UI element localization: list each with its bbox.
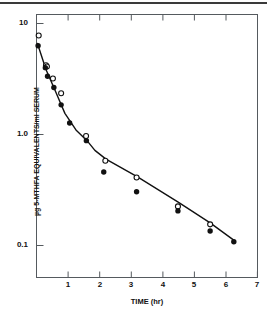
data-point-filled bbox=[67, 120, 72, 125]
filled-circle-series bbox=[35, 43, 236, 244]
x-tick-label-2: 2 bbox=[93, 280, 107, 289]
plot-canvas bbox=[0, 0, 267, 311]
x-axis-title: TIME (hr) bbox=[36, 297, 258, 306]
data-point-open bbox=[36, 33, 41, 38]
x-tick-label-3: 3 bbox=[124, 280, 138, 289]
open-circle-series bbox=[36, 33, 212, 227]
data-point-filled bbox=[58, 102, 63, 107]
data-point-open bbox=[84, 133, 89, 138]
data-point-filled bbox=[35, 43, 40, 48]
fit-curve bbox=[37, 44, 234, 241]
data-point-open bbox=[175, 204, 180, 209]
figure-container: 10 1.0 0.1 1 2 3 4 5 6 7 µg 5-MTHFA EQUI… bbox=[0, 0, 267, 311]
data-point-filled bbox=[101, 169, 106, 174]
y-tick-label-0-1: 0.1 bbox=[6, 240, 28, 249]
data-point-open bbox=[59, 91, 64, 96]
data-point-filled bbox=[207, 228, 212, 233]
x-tick-label-7: 7 bbox=[250, 280, 264, 289]
data-point-open bbox=[134, 175, 139, 180]
data-point-filled bbox=[45, 74, 50, 79]
data-point-filled bbox=[51, 85, 56, 90]
data-point-filled bbox=[134, 189, 139, 194]
data-point-filled bbox=[175, 208, 180, 213]
data-point-filled bbox=[43, 65, 48, 70]
x-axis-ticks bbox=[68, 272, 257, 278]
data-point-filled bbox=[84, 138, 89, 143]
x-tick-label-5: 5 bbox=[187, 280, 201, 289]
axis-frame bbox=[37, 15, 258, 278]
data-point-open bbox=[50, 76, 55, 81]
data-point-open bbox=[208, 222, 213, 227]
data-point-filled bbox=[231, 239, 236, 244]
x-tick-label-1: 1 bbox=[61, 280, 75, 289]
data-point-open bbox=[103, 158, 108, 163]
x-tick-label-4: 4 bbox=[156, 280, 170, 289]
x-tick-label-6: 6 bbox=[219, 280, 233, 289]
y-axis-title: µg 5-MTHFA EQUIVALENTS/ml SERUM bbox=[33, 72, 40, 232]
top-axis-ticks bbox=[68, 15, 226, 21]
y-tick-label-10: 10 bbox=[6, 18, 28, 27]
y-tick-label-1: 1.0 bbox=[6, 129, 28, 138]
